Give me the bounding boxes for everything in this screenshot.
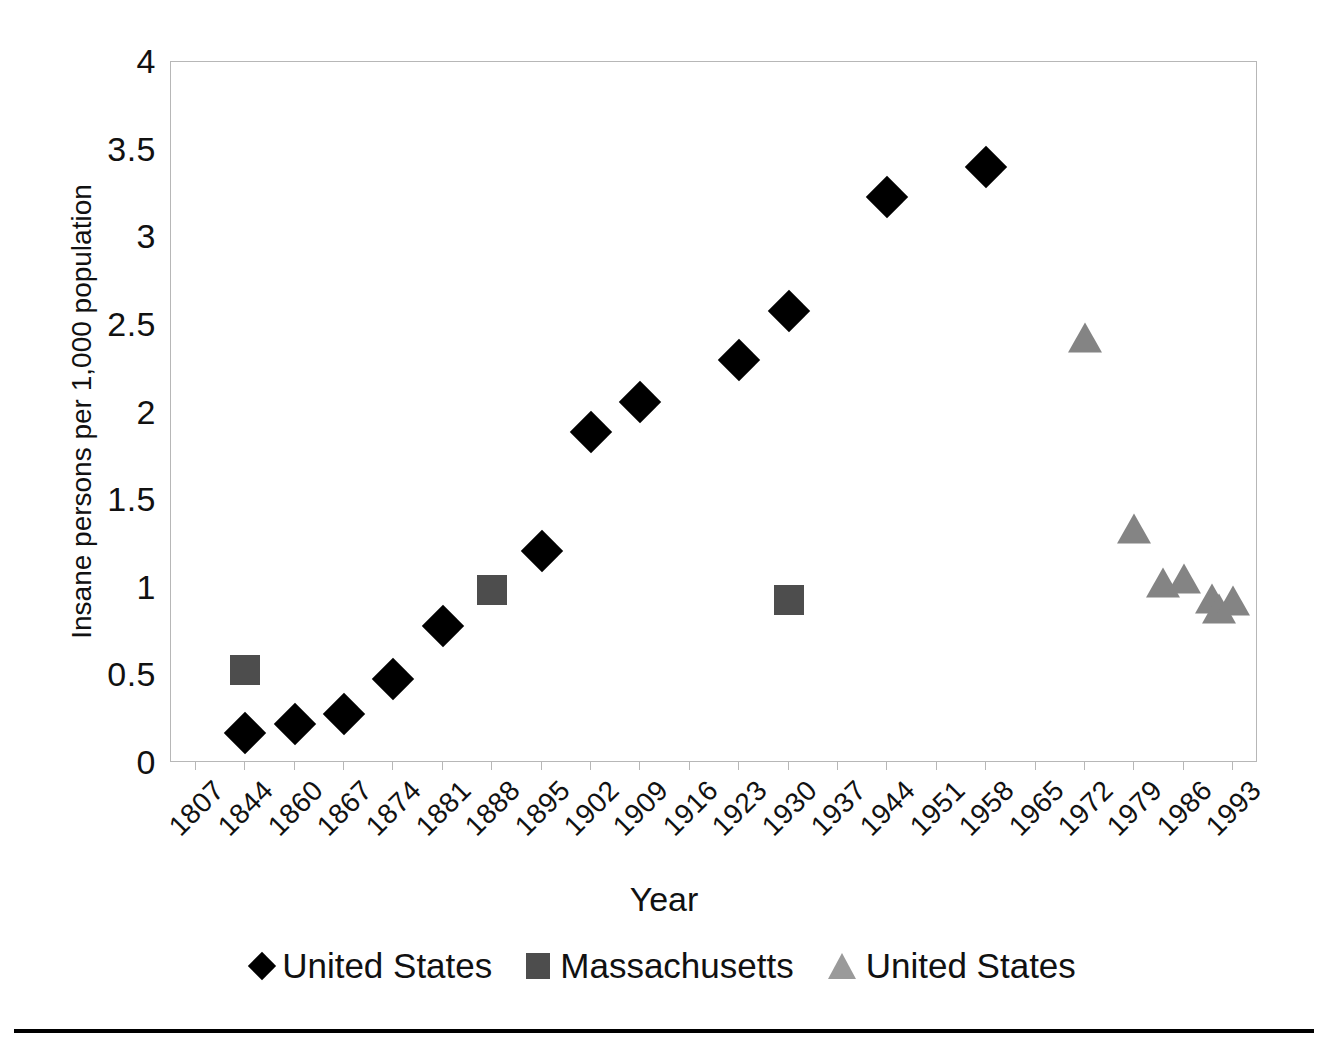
diamond-data-point [422,605,464,647]
x-axis-tick-label: 1807 [163,775,230,842]
y-axis-tick-label: 2 [36,395,156,429]
y-axis-tick-label: 3 [36,219,156,253]
x-axis-tick-label: 1888 [460,775,527,842]
diamond-data-point [520,530,562,572]
square-data-point [774,585,804,615]
x-axis-tick-label: 1979 [1102,775,1169,842]
x-axis-tick [985,762,986,770]
y-axis-tick-label: 0.5 [36,657,156,691]
x-axis-tick-label: 1986 [1151,775,1218,842]
x-axis-tick [343,762,344,770]
square-data-point [477,575,507,605]
diamond-data-point [866,176,908,218]
x-axis-tick [294,762,295,770]
x-axis-tick-label: 1902 [559,775,626,842]
triangle-data-point [1068,322,1102,352]
triangle-data-point [1216,585,1250,615]
x-axis-tick [1232,762,1233,770]
x-axis-tick-label: 1881 [410,775,477,842]
x-axis-tick [541,762,542,770]
legend-item-label: United States [866,946,1076,986]
x-axis-tick-label: 1944 [855,775,922,842]
legend-item-label: United States [282,946,492,986]
x-axis-tick-label: 1930 [756,775,823,842]
x-axis-tick-label: 1958 [954,775,1021,842]
y-axis-tick-label: 3.5 [36,132,156,166]
bottom-divider [14,1029,1314,1033]
chart-legend: United StatesMassachusettsUnited States [0,946,1328,986]
x-axis-tick-label: 1965 [1003,775,1070,842]
diamond-data-point [372,658,414,700]
diamond-data-point [619,381,661,423]
x-axis-tick [491,762,492,770]
x-axis-tick [689,762,690,770]
y-axis-tick-label: 4 [36,44,156,78]
triangle-marker-icon [828,953,856,979]
x-axis-tick [936,762,937,770]
x-axis-tick [1183,762,1184,770]
x-axis-tick [244,762,245,770]
x-axis-tick-label: 1874 [361,775,428,842]
square-marker-icon [526,953,550,979]
triangle-data-point [1117,513,1151,543]
x-axis-tick-label: 1909 [608,775,675,842]
x-axis-tick-label: 1951 [904,775,971,842]
x-axis-tick-label: 1923 [707,775,774,842]
x-axis-tick [1035,762,1036,770]
y-axis-tick-label: 1.5 [36,482,156,516]
x-axis-tick-label: 1867 [311,775,378,842]
x-axis-tick-label: 1916 [657,775,724,842]
x-axis-tick-label: 1844 [213,775,280,842]
x-axis-tick [195,762,196,770]
plot-area [171,62,1256,761]
x-axis-tick [442,762,443,770]
scatter-chart-figure: Insane persons per 1,000 population 00.5… [0,0,1328,1059]
x-axis-tick-label: 1895 [509,775,576,842]
y-axis-tick-label: 0 [36,745,156,779]
diamond-data-point [767,290,809,332]
y-axis-tick-label: 1 [36,570,156,604]
diamond-data-point [224,712,266,754]
x-axis-tick [392,762,393,770]
diamond-data-point [323,693,365,735]
legend-item[interactable]: United States [252,946,492,986]
x-axis-tick [1084,762,1085,770]
legend-item[interactable]: United States [828,946,1076,986]
x-axis-tick [837,762,838,770]
diamond-data-point [570,411,612,453]
x-axis-tick [639,762,640,770]
x-axis-tick [590,762,591,770]
square-data-point [230,655,260,685]
x-axis-tick [788,762,789,770]
x-axis-tick [886,762,887,770]
diamond-data-point [273,703,315,745]
legend-item-label: Massachusetts [560,946,793,986]
plot-area-frame [170,61,1257,762]
x-axis-tick [738,762,739,770]
x-axis-tick-label: 1937 [806,775,873,842]
legend-item[interactable]: Massachusetts [526,946,793,986]
x-axis-title: Year [0,880,1328,919]
diamond-data-point [718,339,760,381]
diamond-data-point [965,146,1007,188]
diamond-marker-icon [248,952,276,980]
y-axis-tick-label: 2.5 [36,307,156,341]
x-axis-tick-label: 1860 [262,775,329,842]
x-axis-tick-label: 1972 [1053,775,1120,842]
x-axis-tick-label: 1993 [1201,775,1268,842]
x-axis-tick [1133,762,1134,770]
